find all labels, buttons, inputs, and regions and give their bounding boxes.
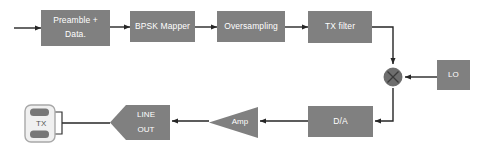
block-local-oscillator[interactable]: LO (437, 60, 470, 90)
tx-connector-pin-top (30, 109, 49, 117)
wire-mixer-to-dac (375, 88, 393, 121)
mixer-multiplier[interactable] (384, 68, 402, 86)
block-amplifier[interactable]: Amp (209, 107, 258, 138)
block-line-out-label-line2: OUT (137, 125, 154, 134)
block-dac[interactable]: D/A (308, 106, 373, 137)
block-line-out[interactable]: LINE OUT (110, 105, 170, 140)
tx-connector-pin-bottom (30, 131, 49, 139)
block-tx-connector[interactable]: TX (25, 105, 55, 142)
block-preamble-data[interactable]: Preamble + Data. (41, 10, 110, 46)
block-diagram-canvas: Preamble + Data. BPSK Mapper Oversamplin… (0, 0, 492, 151)
block-dac-label: D/A (333, 116, 348, 126)
diagram-svg: Preamble + Data. BPSK Mapper Oversamplin… (0, 0, 492, 151)
wire-txfilter-to-mixer (372, 27, 393, 64)
block-tx-filter[interactable]: TX filter (308, 11, 372, 43)
block-bpsk-mapper-label: BPSK Mapper (135, 21, 190, 31)
block-tx-connector-label: TX (36, 119, 47, 128)
block-bpsk-mapper[interactable]: BPSK Mapper (130, 11, 195, 42)
block-tx-filter-label: TX filter (325, 21, 355, 31)
block-local-oscillator-label: LO (448, 70, 459, 79)
block-oversampling-label: Oversampling (224, 21, 278, 31)
block-preamble-data-label-line1: Preamble + (53, 15, 98, 25)
block-amplifier-label: Amp (232, 117, 249, 126)
block-preamble-data-label-line2: Data. (65, 29, 86, 39)
block-line-out-label-line1: LINE (137, 110, 155, 119)
block-oversampling[interactable]: Oversampling (217, 11, 285, 42)
